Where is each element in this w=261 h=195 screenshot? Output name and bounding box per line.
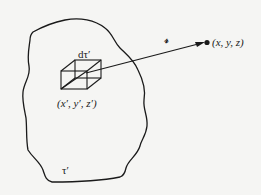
field-point-dot (204, 40, 209, 45)
separation-vector-label: 𝓇 (164, 35, 168, 45)
source-volume-label: τ′ (62, 165, 69, 176)
figure-graphic (0, 0, 261, 195)
volume-element-label: dτ′ (78, 49, 90, 60)
separation-vector-line (86, 43, 202, 73)
diagram-canvas: dτ′ (x′, y′, z′) 𝓇 (x, y, z) τ′ (0, 0, 261, 195)
source-point-label: (x′, y′, z′) (57, 98, 97, 109)
volume-element-cube (61, 60, 101, 89)
field-point-label: (x, y, z) (212, 37, 244, 48)
arrowhead-icon (195, 42, 205, 47)
